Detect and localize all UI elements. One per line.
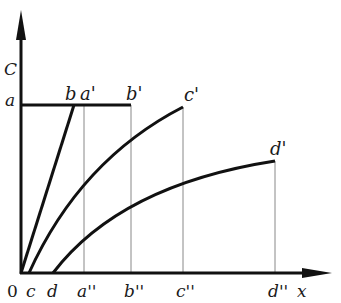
x-axis-label: x [297,281,307,301]
origin-label: 0 [7,281,18,301]
x-axis-arrow-icon [302,268,332,278]
label-b: b [65,83,77,104]
label-a-prime: a' [80,83,96,104]
curve-d-dprime [53,161,275,273]
y-axis-arrow-icon [16,10,26,40]
diagram-canvas: C a b a' b' c' d' 0 c d a'' b'' c'' d'' … [0,0,341,303]
label-a: a [5,90,15,110]
label-c-double: c'' [176,281,195,301]
curve-0-b [21,105,74,273]
label-d: d [47,281,58,301]
curve-c-cprime [29,107,183,273]
label-d-double: d'' [268,281,288,301]
label-c: c [26,281,36,301]
y-axis-label: C [4,59,17,79]
label-b-double: b'' [124,281,144,301]
label-a-double: a'' [77,281,96,301]
label-d-prime: d' [270,138,286,159]
label-c-prime: c' [184,84,199,105]
label-b-prime: b' [126,83,142,104]
